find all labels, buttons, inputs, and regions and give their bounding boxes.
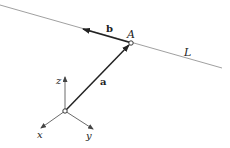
y-axis <box>65 111 93 129</box>
label-y: y <box>85 130 92 141</box>
point-A-marker <box>129 41 133 45</box>
label-z: z <box>55 75 62 86</box>
label-L: L <box>183 46 191 59</box>
label-A: A <box>126 28 135 41</box>
vector-a-arrow <box>66 45 129 110</box>
label-x: x <box>37 129 43 140</box>
label-a: a <box>100 76 107 87</box>
label-b: b <box>106 23 113 34</box>
origin-marker <box>63 109 67 113</box>
x-axis <box>41 111 65 128</box>
diagram-canvas: A L b a z x y <box>0 0 230 148</box>
